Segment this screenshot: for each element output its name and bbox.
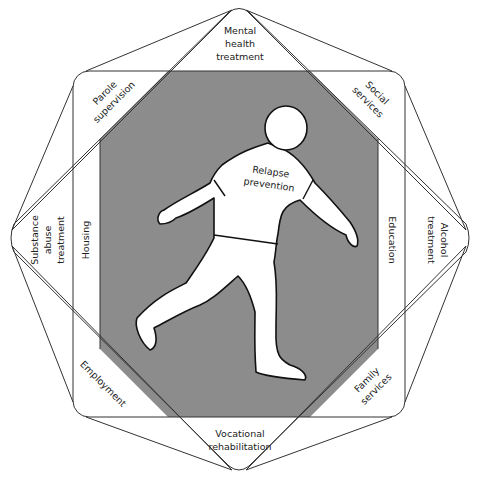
vocational-line-2: rehabilitation [208, 441, 271, 452]
relapse-prevention-diagram: Relapse prevention Mental health treatme… [0, 0, 478, 491]
label-housing: Housing [80, 221, 91, 260]
substance-line-2: abuse [42, 226, 53, 255]
alcohol-line-2: treatment [426, 216, 437, 264]
housing-text: Housing [80, 221, 91, 260]
mental-health-line-3: treatment [216, 51, 264, 62]
label-vocational-rehabilitation: Vocational rehabilitation [208, 428, 271, 452]
mental-health-line-2: health [225, 38, 255, 49]
label-mental-health-treatment: Mental health treatment [216, 25, 264, 62]
vocational-line-1: Vocational [215, 428, 264, 439]
label-alcohol-treatment: Alcohol treatment [426, 216, 450, 264]
label-substance-abuse-treatment: Substance abuse treatment [29, 215, 66, 265]
substance-line-1: Substance [29, 215, 40, 265]
education-text: Education [387, 216, 398, 263]
substance-line-3: treatment [55, 216, 66, 264]
alcohol-line-1: Alcohol [439, 223, 450, 258]
label-social-services: Social services [350, 75, 395, 120]
label-education: Education [387, 216, 398, 263]
mental-health-line-1: Mental [224, 25, 256, 36]
person-head [265, 106, 307, 150]
